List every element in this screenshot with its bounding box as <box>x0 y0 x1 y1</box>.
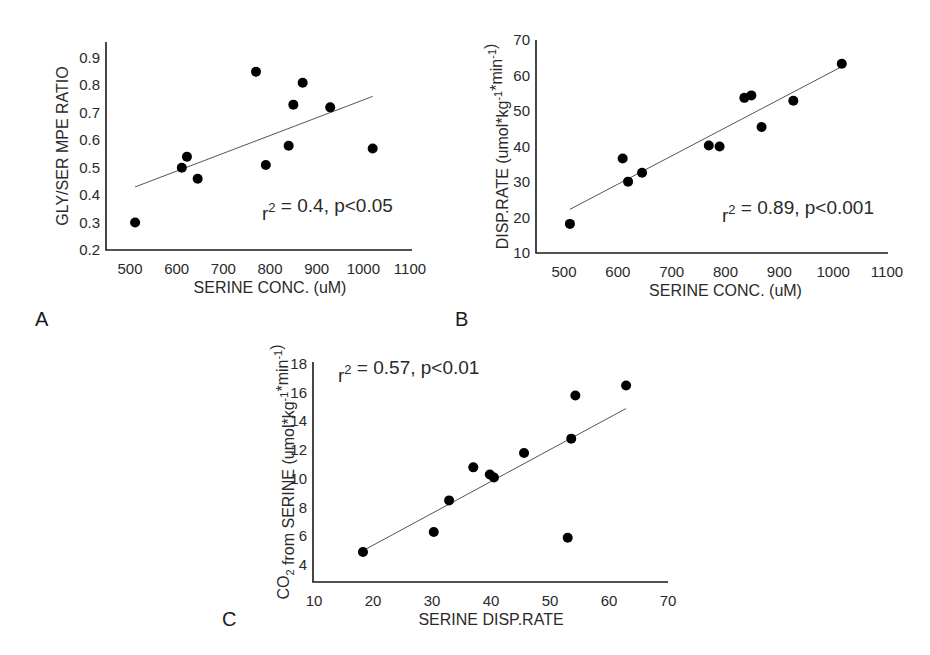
x-tick-label: 1100 <box>394 260 426 277</box>
x-tick-label: 900 <box>304 260 329 277</box>
data-point <box>563 533 573 543</box>
y-tick-label: 0.9 <box>79 49 100 66</box>
y-tick-label: 10 <box>513 244 530 261</box>
x-tick-label: 600 <box>605 263 630 280</box>
data-point <box>261 160 271 170</box>
panel-label: B <box>455 308 468 330</box>
data-point <box>193 174 203 184</box>
y-tick-label: 60 <box>513 67 530 84</box>
y-tick-label: 4 <box>299 556 307 573</box>
data-point <box>570 391 580 401</box>
x-tick-label: 1000 <box>347 260 380 277</box>
y-tick-label: 6 <box>299 527 307 544</box>
data-point <box>130 218 140 228</box>
x-tick-label: 50 <box>542 592 559 609</box>
x-tick-label: 60 <box>601 592 618 609</box>
x-tick-label: 40 <box>483 592 500 609</box>
data-point <box>715 142 725 152</box>
y-tick-label: 0.6 <box>79 131 100 148</box>
y-tick-label: 0.3 <box>79 214 100 231</box>
x-tick-label: 1000 <box>816 263 849 280</box>
r-squared-annotation: r2 = 0.4, p<0.05 <box>262 195 393 224</box>
data-point <box>704 140 714 150</box>
x-tick-label: 70 <box>660 592 677 609</box>
data-point <box>623 177 633 187</box>
data-point <box>489 472 499 482</box>
y-tick-label: 0.7 <box>79 104 100 121</box>
scatter-panel-c: 468101214161810203040506070SERINE DISP.R… <box>222 344 676 630</box>
x-tick-label: 1100 <box>871 263 903 280</box>
data-point <box>637 168 647 178</box>
y-tick-label: 0.8 <box>79 76 100 93</box>
data-point <box>565 219 575 229</box>
y-tick-label: 8 <box>299 499 307 516</box>
data-point <box>618 154 628 164</box>
data-point <box>284 141 294 151</box>
scatter-panel-b: 1020304050607050060070080090010001100SER… <box>455 31 903 330</box>
data-point <box>837 59 847 69</box>
x-tick-label: 800 <box>257 260 282 277</box>
panel-label: A <box>35 308 49 330</box>
x-axis-label: SERINE CONC. (uM) <box>649 282 802 299</box>
data-point <box>429 527 439 537</box>
y-axis-label: GLY/SER MPE RATIO <box>54 66 71 225</box>
data-point <box>368 144 378 154</box>
data-point <box>358 547 368 557</box>
scatter-panel-a: 0.20.30.40.50.60.70.80.95006007008009001… <box>35 42 426 330</box>
data-point <box>468 462 478 472</box>
data-point <box>177 163 187 173</box>
x-tick-label: 900 <box>767 263 792 280</box>
x-axis-label: SERINE CONC. (uM) <box>194 279 347 296</box>
data-point <box>566 434 576 444</box>
data-point <box>746 90 756 100</box>
y-tick-label: 40 <box>513 138 530 155</box>
data-point <box>519 448 529 458</box>
data-point <box>788 96 798 106</box>
data-point <box>288 100 298 110</box>
y-tick-label: 0.5 <box>79 159 100 176</box>
figure-canvas: 0.20.30.40.50.60.70.80.95006007008009001… <box>0 0 930 655</box>
data-point <box>182 152 192 162</box>
y-tick-label: 18 <box>290 355 307 372</box>
regression-line <box>570 67 842 210</box>
x-tick-label: 500 <box>551 263 576 280</box>
data-point <box>444 495 454 505</box>
y-axis-label: DISP.RATE (umol*kg-1*min-1) <box>482 44 511 250</box>
y-tick-label: 30 <box>513 173 530 190</box>
x-tick-label: 20 <box>365 592 382 609</box>
data-point <box>621 381 631 391</box>
x-axis-label: SERINE DISP.RATE <box>418 611 563 628</box>
y-tick-label: 16 <box>290 384 307 401</box>
y-tick-label: 0.4 <box>79 186 100 203</box>
x-tick-label: 800 <box>713 263 738 280</box>
data-point <box>757 122 767 132</box>
r-squared-annotation: r2 = 0.57, p<0.01 <box>338 357 479 386</box>
data-point <box>325 102 335 112</box>
x-tick-label: 10 <box>306 592 323 609</box>
x-tick-label: 700 <box>659 263 684 280</box>
y-tick-label: 20 <box>513 209 530 226</box>
r-squared-annotation: r2 = 0.89, p<0.001 <box>722 197 874 226</box>
x-tick-label: 30 <box>424 592 441 609</box>
y-tick-label: 70 <box>513 31 530 48</box>
regression-line <box>135 96 373 187</box>
x-tick-label: 600 <box>164 260 189 277</box>
y-tick-label: 0.2 <box>79 241 100 258</box>
x-tick-label: 500 <box>117 260 142 277</box>
y-tick-label: 50 <box>513 102 530 119</box>
data-point <box>251 67 261 77</box>
panel-label: C <box>222 608 236 630</box>
x-tick-label: 700 <box>211 260 236 277</box>
data-point <box>298 78 308 88</box>
